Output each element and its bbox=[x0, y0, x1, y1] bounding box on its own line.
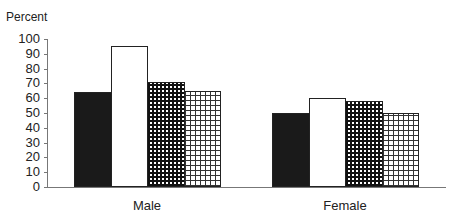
bar-male-series-3 bbox=[147, 82, 185, 187]
bar-female-series-4 bbox=[382, 113, 420, 187]
y-axis bbox=[47, 39, 48, 187]
y-axis-label: Percent bbox=[6, 10, 47, 24]
bar-chart: Percent 0102030405060708090100 MaleFemal… bbox=[0, 0, 459, 222]
y-tick-label: 70 bbox=[0, 76, 40, 89]
y-tick-label: 60 bbox=[0, 91, 40, 104]
y-tick-label: 10 bbox=[0, 165, 40, 178]
y-tick-label: 80 bbox=[0, 62, 40, 75]
bar-male-series-2 bbox=[111, 46, 149, 187]
y-tick-label: 100 bbox=[0, 32, 40, 45]
y-tick-label: 20 bbox=[0, 150, 40, 163]
y-tick-label: 40 bbox=[0, 121, 40, 134]
x-category-label: Female bbox=[295, 198, 395, 213]
y-tick-label: 30 bbox=[0, 136, 40, 149]
bar-female-series-2 bbox=[309, 98, 347, 187]
bar-male-series-4 bbox=[184, 91, 222, 187]
x-axis bbox=[47, 187, 446, 188]
bar-female-series-3 bbox=[345, 101, 383, 187]
bar-female-series-1 bbox=[272, 113, 310, 187]
y-tick-label: 50 bbox=[0, 106, 40, 119]
bar-male-series-1 bbox=[74, 92, 112, 187]
y-tick-label: 0 bbox=[0, 180, 40, 193]
y-tick-label: 90 bbox=[0, 47, 40, 60]
x-category-label: Male bbox=[97, 198, 197, 213]
